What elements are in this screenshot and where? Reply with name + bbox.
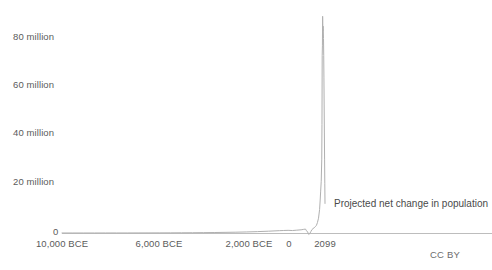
population-change-chart: 80 million 60 million 40 million 20 mill… [0,0,492,270]
x-axis-tick-2000-bce: 2,000 BCE [226,239,273,249]
x-axis-tick-6000-bce: 6,000 BCE [136,239,183,249]
x-axis-tick-zero: 0 [286,239,291,249]
x-axis-tick-10000-bce: 10,000 BCE [36,239,88,249]
series-annotation-label: Projected net change in population [334,199,488,209]
series-line-projected-net-change [62,16,325,234]
license-label: CC BY [430,250,460,260]
x-axis-tick-2099: 2099 [314,239,336,249]
plot-area [0,0,492,270]
